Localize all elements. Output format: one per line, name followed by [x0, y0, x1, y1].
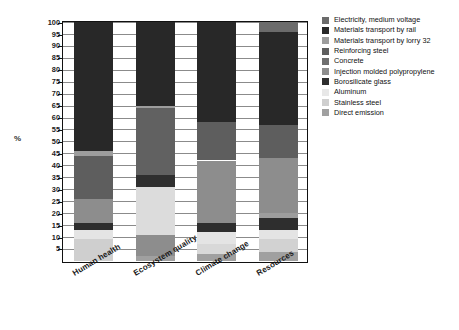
chart-legend: Electricity, medium voltageMaterials tra…	[322, 15, 458, 118]
bar-segment	[259, 213, 298, 218]
y-tick-mark	[58, 202, 62, 203]
y-tick-mark	[58, 23, 62, 24]
bar-segment	[259, 125, 298, 158]
y-tick-mark	[58, 166, 62, 167]
bar-segment	[197, 22, 236, 122]
y-tick-mark	[58, 94, 62, 95]
bar-segment	[259, 22, 298, 32]
bar-segment	[74, 156, 113, 199]
legend-item[interactable]: Direct emission	[322, 108, 458, 118]
y-tick-mark	[58, 190, 62, 191]
bar-segment	[74, 230, 113, 240]
y-tick-mark	[58, 178, 62, 179]
bar-climate-change	[197, 22, 236, 262]
bar-segment	[197, 122, 236, 160]
legend-item[interactable]: Reinforcing steel	[322, 46, 458, 56]
y-tick-mark	[58, 238, 62, 239]
y-tick-mark	[58, 58, 62, 59]
y-tick-mark	[58, 35, 62, 36]
y-tick-mark	[58, 70, 62, 71]
legend-swatch-icon	[322, 78, 329, 85]
y-tick-mark	[58, 142, 62, 143]
legend-item[interactable]: Stainless steel	[322, 97, 458, 107]
bar-segment	[197, 232, 236, 244]
legend-item[interactable]: Concrete	[322, 56, 458, 66]
bar-segment	[74, 199, 113, 223]
legend-swatch-icon	[322, 48, 329, 55]
bar-segment	[197, 161, 236, 223]
y-tick-mark	[58, 118, 62, 119]
legend-swatch-icon	[322, 99, 329, 106]
bar-ecosystem-quality	[136, 22, 175, 262]
legend-label: Direct emission	[334, 109, 384, 117]
bar-segment	[74, 223, 113, 230]
legend-label: Reinforcing steel	[334, 47, 388, 55]
legend-label: Materials transport by rail	[334, 26, 416, 34]
bar-segment	[136, 108, 175, 175]
legend-item[interactable]: Borosilicate glass	[322, 77, 458, 87]
bar-resources	[259, 22, 298, 262]
y-tick-mark	[58, 249, 62, 250]
legend-item[interactable]: Injection molded polypropylene	[322, 66, 458, 76]
legend-label: Injection molded polypropylene	[334, 68, 435, 76]
y-tick-mark	[58, 226, 62, 227]
legend-swatch-icon	[322, 89, 329, 96]
legend-swatch-icon	[322, 109, 329, 116]
legend-swatch-icon	[322, 27, 329, 34]
legend-item[interactable]: Materials transport by lorry 32	[322, 36, 458, 46]
bar-segment	[74, 22, 113, 151]
bar-segment	[74, 151, 113, 156]
legend-item[interactable]: Aluminum	[322, 87, 458, 97]
bar-segment	[259, 218, 298, 230]
legend-label: Stainless steel	[334, 99, 381, 107]
legend-label: Concrete	[334, 57, 364, 65]
y-axis-tick-labels: 1009590858075706560555045403530252015105	[36, 14, 60, 270]
legend-label: Aluminum	[334, 88, 366, 96]
bar-segment	[136, 106, 175, 108]
y-tick-mark	[58, 214, 62, 215]
plot-area	[62, 21, 308, 263]
y-axis-label: %	[14, 134, 21, 143]
bar-segment	[259, 230, 298, 240]
legend-swatch-icon	[322, 37, 329, 44]
y-tick-mark	[58, 130, 62, 131]
bar-segment	[259, 158, 298, 213]
legend-item[interactable]: Electricity, medium voltage	[322, 15, 458, 25]
legend-item[interactable]: Materials transport by rail	[322, 25, 458, 35]
legend-label: Electricity, medium voltage	[334, 16, 420, 24]
y-tick-mark	[58, 154, 62, 155]
bar-segment	[259, 32, 298, 125]
bar-segment	[136, 22, 175, 106]
y-tick-mark	[58, 106, 62, 107]
legend-label: Borosilicate glass	[334, 78, 391, 86]
y-tick-mark	[58, 46, 62, 47]
legend-swatch-icon	[322, 68, 329, 75]
bar-segment	[136, 187, 175, 235]
legend-swatch-icon	[322, 17, 329, 24]
legend-swatch-icon	[322, 58, 329, 65]
y-tick-mark	[58, 82, 62, 83]
bar-segment	[197, 223, 236, 233]
chart-figure: % 10095908580757065605550454035302520151…	[0, 0, 459, 330]
bar-segment	[136, 175, 175, 187]
bar-human-health	[74, 22, 113, 262]
legend-label: Materials transport by lorry 32	[334, 37, 431, 45]
